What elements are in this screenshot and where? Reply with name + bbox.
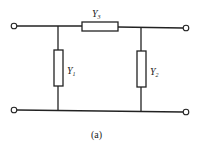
label-y3: Y3 [92,8,101,20]
admittance-y2 [137,51,146,87]
pi-network-diagram: Y3 Y1 Y2 (a) [0,0,202,154]
bottom-wire [17,110,183,112]
admittance-y1 [54,50,63,86]
terminal-top-right-icon [183,25,189,31]
terminal-top-left-icon [11,23,17,29]
label-y1: Y1 [67,65,76,77]
terminal-bottom-right-icon [183,109,189,115]
figure-caption: (a) [91,129,102,141]
admittance-y3 [82,22,118,31]
terminal-bottom-left-icon [11,107,17,113]
label-y2: Y2 [150,66,159,78]
top-wire-right [118,27,183,28]
